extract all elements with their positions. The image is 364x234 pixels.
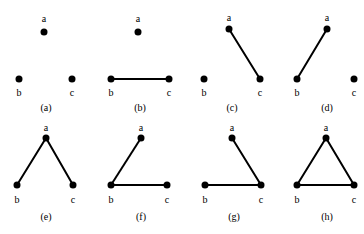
graph-node-b [202, 182, 209, 189]
graph-node-a [41, 29, 48, 36]
graph-node-a [324, 26, 331, 33]
graph-node-c [166, 76, 173, 83]
graph-node-a [323, 135, 330, 142]
panel-caption: (f) [126, 212, 156, 222]
graph-node-c [351, 182, 358, 189]
graph-edge-ac [232, 138, 261, 185]
graph-panel-c: abc(c) [182, 0, 273, 117]
graph-node-c [351, 76, 358, 83]
graph-node-c [257, 76, 264, 83]
node-label-b: b [104, 88, 118, 98]
node-label-b: b [198, 195, 212, 205]
node-label-b: b [104, 195, 118, 205]
node-label-c: c [65, 88, 79, 98]
graph-edge-ac [229, 29, 260, 79]
node-label-c: c [253, 88, 267, 98]
panel-caption: (g) [219, 212, 249, 222]
node-label-a: a [225, 123, 239, 133]
graph-node-a [229, 135, 236, 142]
graph-node-a [43, 135, 50, 142]
node-label-b: b [10, 195, 24, 205]
node-label-a: a [320, 13, 334, 23]
node-label-c: c [160, 195, 174, 205]
graph-node-b [201, 76, 208, 83]
node-label-c: c [162, 88, 176, 98]
graph-edge-ac [46, 138, 73, 185]
graph-panel-f: abc(f) [91, 117, 182, 234]
graph-figure: abc(a)abc(b)abc(c)abc(d)abc(e)abc(f)abc(… [0, 0, 364, 234]
node-label-a: a [39, 123, 53, 133]
node-label-b: b [290, 88, 304, 98]
graph-node-c [69, 76, 76, 83]
panel-caption: (h) [312, 212, 342, 222]
graph-edge-ab [111, 138, 141, 185]
graph-node-b [16, 76, 23, 83]
graph-node-c [70, 182, 77, 189]
graph-node-b [108, 76, 115, 83]
node-label-a: a [131, 14, 145, 24]
panel-caption: (b) [125, 103, 155, 113]
panel-caption: (c) [217, 103, 247, 113]
node-label-b: b [12, 88, 26, 98]
node-label-a: a [37, 14, 51, 24]
node-label-b: b [197, 88, 211, 98]
node-label-a: a [319, 123, 333, 133]
node-label-c: c [66, 195, 80, 205]
graph-node-a [135, 29, 142, 36]
node-label-c: c [254, 195, 268, 205]
graph-edge-ab [297, 138, 326, 185]
graph-edge-ac [326, 138, 354, 185]
graph-node-c [164, 182, 171, 189]
graph-panel-d: abc(d) [273, 0, 364, 117]
graph-node-b [294, 182, 301, 189]
graph-node-b [14, 182, 21, 189]
panel-caption: (e) [31, 212, 61, 222]
graph-node-b [108, 182, 115, 189]
panel-caption: (d) [312, 103, 342, 113]
graph-panel-h: abc(h) [273, 117, 364, 234]
panel-caption: (a) [31, 103, 61, 113]
node-label-c: c [347, 88, 361, 98]
graph-node-b [294, 76, 301, 83]
graph-edge-ab [297, 29, 327, 79]
graph-node-a [226, 26, 233, 33]
graph-drawing [273, 0, 364, 117]
graph-edge-ab [17, 138, 46, 185]
node-label-c: c [347, 195, 361, 205]
node-label-a: a [222, 13, 236, 23]
graph-panel-g: abc(g) [182, 117, 273, 234]
graph-panel-e: abc(e) [0, 117, 91, 234]
graph-node-a [138, 135, 145, 142]
graph-node-c [258, 182, 265, 189]
graph-panel-a: abc(a) [0, 0, 91, 117]
graph-panel-b: abc(b) [91, 0, 182, 117]
node-label-a: a [134, 123, 148, 133]
node-label-b: b [290, 195, 304, 205]
